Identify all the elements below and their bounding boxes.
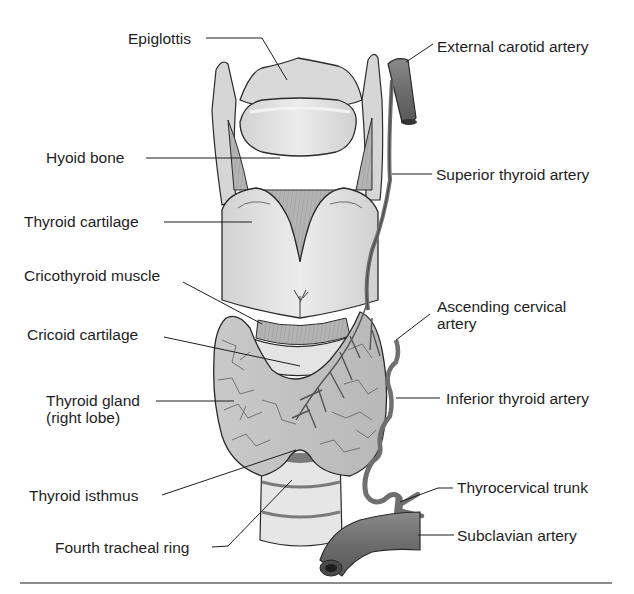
label-external-carotid-artery: External carotid artery xyxy=(437,38,589,55)
label-ascending-cervical-artery: Ascending cervical artery xyxy=(437,298,566,332)
label-fourth-tracheal-ring: Fourth tracheal ring xyxy=(55,539,189,556)
bottom-divider xyxy=(20,582,612,584)
cricothyroid-muscle-shape xyxy=(256,318,350,345)
label-ascending-cervical-line1: Ascending cervical xyxy=(437,298,566,315)
label-thyroid-gland-line1: Thyroid gland xyxy=(46,392,140,409)
label-ascending-cervical-line2: artery xyxy=(437,315,566,332)
label-thyrocervical-trunk: Thyrocervical trunk xyxy=(457,479,588,496)
thyroid-anatomy-illustration xyxy=(0,0,634,594)
label-thyroid-cartilage: Thyroid cartilage xyxy=(24,213,139,230)
label-subclavian-artery: Subclavian artery xyxy=(457,527,577,544)
label-superior-thyroid-artery: Superior thyroid artery xyxy=(436,166,589,183)
label-hyoid-bone: Hyoid bone xyxy=(46,149,124,166)
label-thyroid-gland-line2: (right lobe) xyxy=(46,409,140,426)
label-cricothyroid-muscle: Cricothyroid muscle xyxy=(24,267,160,284)
label-thyroid-isthmus: Thyroid isthmus xyxy=(29,487,138,504)
label-thyroid-gland: Thyroid gland (right lobe) xyxy=(46,392,140,426)
label-inferior-thyroid-artery: Inferior thyroid artery xyxy=(446,390,589,407)
label-epiglottis: Epiglottis xyxy=(128,30,191,47)
label-cricoid-cartilage: Cricoid cartilage xyxy=(27,326,138,343)
